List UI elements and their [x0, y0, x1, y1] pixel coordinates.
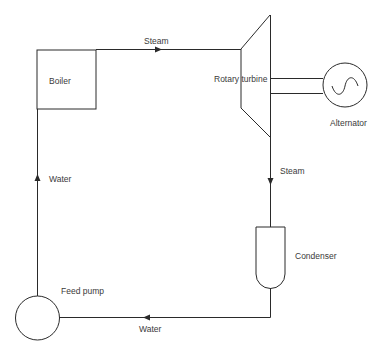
sine-wave-icon — [332, 78, 358, 95]
water-label-bottom: Water — [139, 324, 162, 334]
steam-label-top: Steam — [144, 36, 169, 46]
alternator-label: Alternator — [330, 118, 367, 128]
condenser-label: Condenser — [295, 251, 337, 261]
feed-pump-label: Feed pump — [61, 286, 104, 296]
flow-arrow-left-icon — [143, 315, 150, 321]
steam-label-down: Steam — [280, 166, 305, 176]
condenser-vessel — [256, 227, 285, 289]
flow-arrow-down-icon — [268, 178, 274, 185]
boiler-label: Boiler — [49, 76, 71, 86]
turbine-label: Rotary turbine — [214, 74, 268, 84]
steam-cycle-diagram: Boiler Steam Rotary turbine Alternator S… — [0, 0, 383, 357]
flow-arrow-right-icon — [155, 47, 162, 53]
water-label-left: Water — [49, 174, 72, 184]
feed-pump-circle — [16, 296, 60, 340]
flow-arrow-up-icon — [35, 174, 41, 181]
